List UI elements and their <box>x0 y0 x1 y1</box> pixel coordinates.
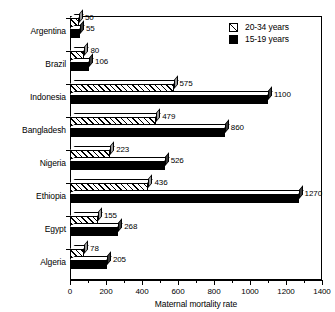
category-label: Brazil <box>0 59 66 69</box>
bar-algeria-15-19 <box>70 260 107 269</box>
x-tick-label: 0 <box>50 287 90 296</box>
x-tick-major <box>214 280 215 285</box>
bar-value-label: 436 <box>154 178 167 187</box>
category-label: Algeria <box>0 257 66 267</box>
x-tick-minor <box>196 280 197 283</box>
category-label: Argentina <box>0 26 66 36</box>
bar-value-label: 479 <box>162 112 175 121</box>
x-tick-major <box>286 280 287 285</box>
x-tick-label: 600 <box>158 287 198 296</box>
x-tick-label: 1400 <box>302 287 335 296</box>
x-tick-minor <box>268 280 269 283</box>
bar-bangladesh-15-19 <box>70 128 225 137</box>
bar-ethiopia-15-19 <box>70 194 299 203</box>
category-label: Indonesia <box>0 92 66 102</box>
x-tick-major <box>70 280 71 285</box>
bar-value-label: 268 <box>124 222 137 231</box>
x-tick-label: 1200 <box>266 287 306 296</box>
category-label: Ethiopia <box>0 191 66 201</box>
bar-value-label: 55 <box>86 24 95 33</box>
bar-value-label: 1270 <box>305 189 322 198</box>
bar-value-label: 50 <box>85 13 94 22</box>
bar-value-label: 526 <box>171 156 184 165</box>
x-tick-minor <box>304 280 305 283</box>
bar-value-label: 223 <box>116 145 129 154</box>
x-tick-label: 1000 <box>230 287 270 296</box>
bar-value-label: 155 <box>104 211 117 220</box>
x-tick-label: 200 <box>86 287 126 296</box>
category-label: Egypt <box>0 224 66 234</box>
x-tick-major <box>142 280 143 285</box>
black-square-icon <box>229 35 238 44</box>
bar-value-label: 860 <box>231 123 244 132</box>
hatched-square-icon <box>229 23 238 32</box>
bar-nigeria-15-19 <box>70 161 165 170</box>
maternal-mortality-bar-chart: 0200400600800100012001400 ArgentinaBrazi… <box>0 0 335 312</box>
category-label: Bangladesh <box>0 125 66 135</box>
bar-indonesia-15-19 <box>70 95 268 104</box>
bar-value-label: 575 <box>180 79 193 88</box>
x-tick-minor <box>124 280 125 283</box>
x-tick-minor <box>160 280 161 283</box>
bar-value-label: 1100 <box>274 90 291 99</box>
x-tick-label: 400 <box>122 287 162 296</box>
x-tick-major <box>106 280 107 285</box>
x-tick-major <box>250 280 251 285</box>
x-tick-label: 800 <box>194 287 234 296</box>
bar-value-label: 78 <box>90 244 99 253</box>
legend-label-15-19: 15-19 years <box>245 34 289 45</box>
x-tick-minor <box>232 280 233 283</box>
bar-egypt-15-19 <box>70 227 118 236</box>
category-label: Nigeria <box>0 158 66 168</box>
x-tick-minor <box>88 280 89 283</box>
x-tick-major <box>322 280 323 285</box>
x-axis-title: Maternal mortality rate <box>70 299 322 309</box>
bar-argentina-15-19 <box>70 29 80 38</box>
bar-brazil-15-19 <box>70 62 89 71</box>
bar-value-label: 106 <box>95 57 108 66</box>
legend-label-20-34: 20-34 years <box>245 22 289 33</box>
bar-value-label: 205 <box>113 255 126 264</box>
x-tick-major <box>178 280 179 285</box>
